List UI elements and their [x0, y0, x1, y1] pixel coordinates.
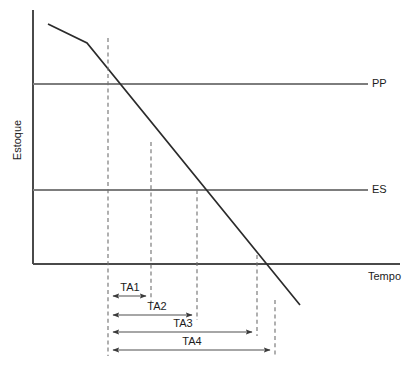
time-span-ta2: TA2 — [113, 300, 192, 315]
time-span-ta3: TA3 — [113, 317, 252, 332]
axes-group — [33, 10, 400, 264]
labels-group: PP ES Tempo Estoque — [11, 77, 401, 282]
stock-level-curve — [48, 24, 300, 305]
time-span-ta1: TA1 — [113, 281, 146, 296]
span-label-ta2: TA2 — [147, 300, 166, 312]
span-label-ta3: TA3 — [173, 317, 192, 329]
time-span-arrows-group: TA1TA2TA3TA4 — [113, 281, 270, 350]
pp-level-label: PP — [372, 77, 387, 89]
span-label-ta4: TA4 — [182, 335, 201, 347]
reference-levels-group — [33, 84, 368, 190]
y-axis-label: Estoque — [11, 120, 23, 160]
x-axis-label: Tempo — [368, 270, 401, 282]
time-span-ta4: TA4 — [113, 335, 270, 350]
span-label-ta1: TA1 — [120, 281, 139, 293]
stock-curve-group — [48, 24, 300, 305]
drop-lines-group — [108, 38, 275, 356]
chart-canvas: TA1TA2TA3TA4 PP ES Tempo Estoque — [0, 0, 417, 376]
es-level-label: ES — [372, 183, 387, 195]
stock-level-diagram: TA1TA2TA3TA4 PP ES Tempo Estoque — [0, 0, 417, 376]
